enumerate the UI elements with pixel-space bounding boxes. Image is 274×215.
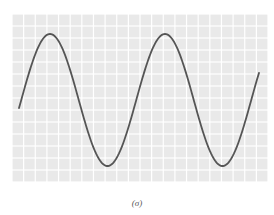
grid-cell	[141, 159, 151, 170]
grid-cell	[13, 171, 23, 182]
sine-wave-chart	[0, 0, 274, 215]
grid-cell	[48, 111, 58, 122]
grid-cell	[164, 51, 174, 62]
grid-cell	[106, 75, 116, 86]
grid-cell	[106, 147, 116, 158]
grid-cell	[257, 147, 267, 158]
grid-cell	[199, 111, 209, 122]
grid-cell	[210, 63, 220, 74]
grid-cell	[164, 123, 174, 134]
grid-cell	[176, 87, 186, 98]
grid-cell	[152, 147, 162, 158]
grid-cell	[82, 171, 92, 182]
grid-cell	[94, 51, 104, 62]
grid-cell	[176, 159, 186, 170]
grid-cell	[117, 159, 127, 170]
grid-cell	[82, 75, 92, 86]
grid-cell	[234, 63, 244, 74]
grid-cell	[48, 51, 58, 62]
grid-cell	[71, 147, 81, 158]
grid-cell	[106, 171, 116, 182]
grid-cell	[245, 147, 255, 158]
grid-cell	[71, 27, 81, 38]
grid-cell	[257, 51, 267, 62]
grid-cell	[152, 123, 162, 134]
grid-cell	[71, 159, 81, 170]
grid-cell	[13, 63, 23, 74]
grid-cell	[141, 99, 151, 110]
grid-cell	[234, 51, 244, 62]
grid-cell	[245, 51, 255, 62]
grid-cell	[117, 171, 127, 182]
grid-cell	[234, 87, 244, 98]
grid-cell	[164, 171, 174, 182]
grid-cell	[36, 147, 46, 158]
grid-cell	[106, 99, 116, 110]
grid-cell	[36, 87, 46, 98]
grid-cell	[245, 159, 255, 170]
grid-cell	[106, 51, 116, 62]
grid-cell	[48, 75, 58, 86]
grid-cell	[129, 15, 139, 26]
grid-cell	[187, 63, 197, 74]
grid-cell	[129, 171, 139, 182]
grid-cell	[234, 75, 244, 86]
grid-cell	[36, 51, 46, 62]
grid-cell	[82, 39, 92, 50]
grid-cell	[13, 159, 23, 170]
grid-cell	[141, 87, 151, 98]
grid-cell	[59, 147, 69, 158]
grid-cell	[94, 87, 104, 98]
grid-cell	[257, 111, 267, 122]
grid-cell	[129, 27, 139, 38]
grid-cell	[199, 63, 209, 74]
grid-cell	[59, 75, 69, 86]
grid-cell	[94, 75, 104, 86]
grid-cell	[187, 111, 197, 122]
grid-cell	[210, 51, 220, 62]
grid-cell	[59, 159, 69, 170]
grid-cell	[234, 99, 244, 110]
grid-cell	[234, 159, 244, 170]
grid-cell	[176, 123, 186, 134]
grid-cell	[257, 123, 267, 134]
grid-cell	[94, 111, 104, 122]
grid-cell	[152, 15, 162, 26]
grid-cell	[257, 27, 267, 38]
grid-cell	[106, 63, 116, 74]
grid-cell	[199, 147, 209, 158]
grid-cell	[257, 39, 267, 50]
grid-cell	[176, 135, 186, 146]
grid-cell	[152, 63, 162, 74]
grid-cell	[71, 135, 81, 146]
grid-cell	[129, 147, 139, 158]
grid-cell	[117, 87, 127, 98]
grid-cell	[24, 99, 34, 110]
grid-cell	[129, 63, 139, 74]
grid-cell	[82, 63, 92, 74]
grid-cell	[210, 171, 220, 182]
grid-cell	[48, 15, 58, 26]
grid-cell	[106, 27, 116, 38]
grid-cell	[106, 111, 116, 122]
grid-cell	[176, 147, 186, 158]
grid-cell	[94, 39, 104, 50]
grid-cell	[176, 75, 186, 86]
grid-cell	[94, 99, 104, 110]
grid-cell	[48, 99, 58, 110]
grid-cell	[71, 111, 81, 122]
grid-cell	[59, 99, 69, 110]
grid-cell	[117, 111, 127, 122]
grid-cell	[82, 87, 92, 98]
grid-cell	[210, 111, 220, 122]
grid-cell	[210, 135, 220, 146]
grid-cell	[117, 99, 127, 110]
grid-cell	[59, 87, 69, 98]
grid-cell	[36, 15, 46, 26]
grid-cell	[48, 39, 58, 50]
grid-cell	[222, 51, 232, 62]
grid-cell	[164, 147, 174, 158]
grid-cell	[222, 39, 232, 50]
grid-cell	[199, 171, 209, 182]
grid-cell	[164, 63, 174, 74]
